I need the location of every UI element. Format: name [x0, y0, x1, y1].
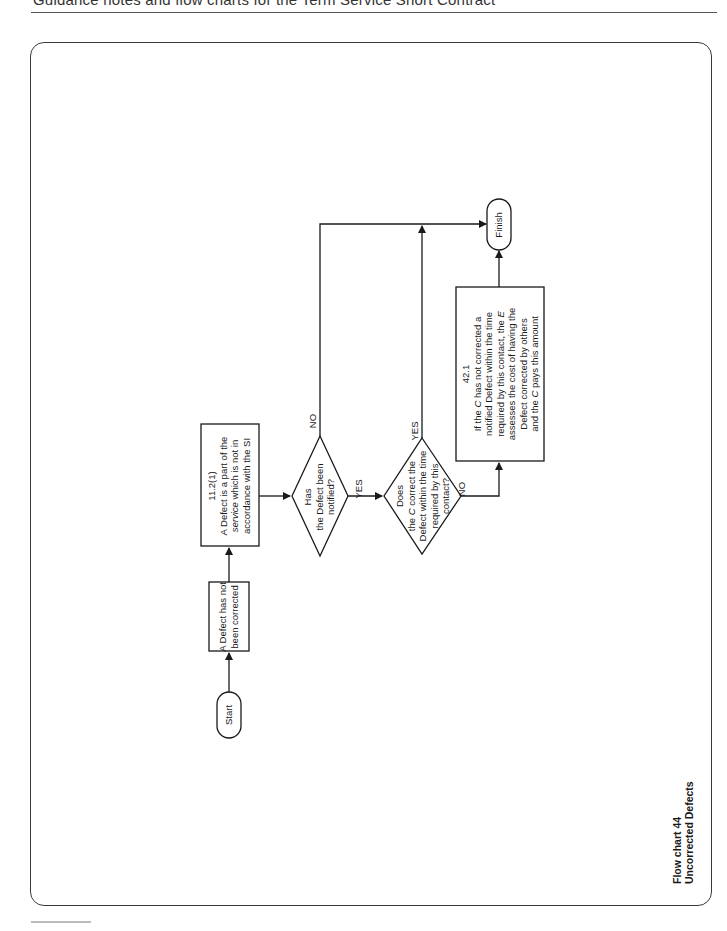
clause-42-1-label: 42.1 If the C has not corrected a notifi… — [460, 294, 540, 454]
finish-label: Finish — [493, 200, 505, 250]
edge-label-corrected-yes: YES — [409, 416, 421, 446]
edge-label-corrected-no: NO — [456, 474, 468, 504]
edge-label-notified-no: NO — [307, 406, 319, 436]
flowchart-caption: Flow chart 44 Uncorrected Defects — [671, 788, 697, 884]
flowchart-graphics — [0, 0, 727, 931]
start-label: Start — [223, 690, 235, 740]
clause-11-2-1-label: 11.2(1) A Defect is a part of the servic… — [206, 430, 254, 542]
footer-divider — [31, 921, 91, 923]
edge-label-notified-yes: YES — [353, 474, 365, 504]
decision-notified-label: Has the Defect been notified? — [302, 457, 338, 537]
not-corrected-label: A Defect has not been corrected — [217, 577, 241, 657]
decision-corrected-label: Does the C correct the Defect within the… — [394, 441, 452, 551]
